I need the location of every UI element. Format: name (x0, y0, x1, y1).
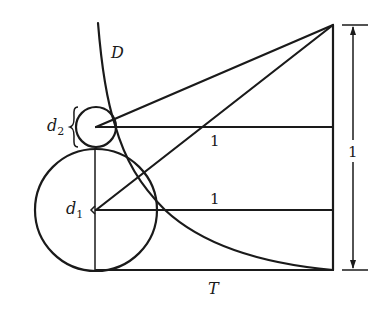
label-upper-segment: 1 (210, 132, 220, 150)
apex-to-large-center (96, 25, 333, 210)
dimension-arrow-up-icon (350, 26, 356, 35)
label-height-dimension: 1 (348, 143, 358, 161)
apex-to-small-center (96, 25, 333, 127)
label-curve-d: D (110, 43, 124, 62)
label-d2: d2 (47, 116, 64, 138)
label-d1: d1 (66, 199, 83, 221)
label-lower-segment: 1 (210, 190, 220, 208)
diagram-canvas: D d2 d1 1 1 1 T (0, 0, 383, 323)
dimension-arrow-down-icon (350, 260, 356, 269)
label-base-t: T (208, 279, 220, 298)
